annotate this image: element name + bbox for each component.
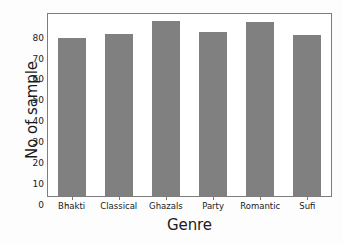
x-tick-mark — [72, 197, 73, 200]
y-tick-label: 60 — [22, 74, 44, 84]
x-tick-mark — [166, 197, 167, 200]
bar — [58, 38, 86, 196]
y-tick-label: 10 — [22, 179, 44, 189]
x-tick-mark — [119, 197, 120, 200]
y-tick-label: 20 — [22, 158, 44, 168]
bars-container — [48, 14, 331, 196]
y-tick-label: 50 — [22, 95, 44, 105]
y-tick-label: 70 — [22, 54, 44, 64]
y-tick-label: 30 — [22, 137, 44, 147]
bar-chart-figure: No of sample 01020304050607080 BhaktiCla… — [0, 0, 343, 244]
x-axis-tick-labels: BhaktiClassicalGhazalsPartyRomanticSufi — [48, 197, 331, 215]
y-tick-label: 40 — [22, 116, 44, 126]
x-tick-mark — [260, 197, 261, 200]
bar — [105, 34, 133, 196]
x-tick-mark — [213, 197, 214, 200]
y-tick-label: 80 — [22, 33, 44, 43]
x-tick-label: Sufi — [272, 201, 342, 211]
y-axis-tick-labels: 01020304050607080 — [22, 22, 44, 198]
bar — [152, 21, 180, 196]
bar — [199, 32, 227, 196]
x-axis-label: Genre — [47, 216, 332, 234]
bar — [246, 22, 274, 196]
bar — [293, 35, 321, 196]
x-tick-mark — [307, 197, 308, 200]
